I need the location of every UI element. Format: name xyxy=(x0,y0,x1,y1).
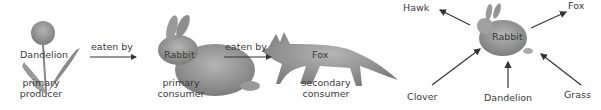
arrow-clover-to-rabbit xyxy=(432,49,480,85)
rabbit-web-label: Rabbit xyxy=(492,31,523,42)
dandelion-role-line2: producer xyxy=(17,88,65,99)
grass-label: Grass xyxy=(564,89,591,100)
dandelion-role: primary producer xyxy=(17,77,65,99)
fox-role: secondary consumer xyxy=(296,77,356,99)
clover-label: Clover xyxy=(407,91,437,102)
arrow-rabbit-to-hawk xyxy=(440,10,470,25)
rabbit-web-illustration xyxy=(477,2,533,56)
eaten-by-label-2: eaten by xyxy=(225,41,267,52)
dandelion-role-line1: primary xyxy=(17,77,65,88)
fox-web-label: Fox xyxy=(568,0,584,11)
arrow-rabbit-to-fox xyxy=(531,12,566,28)
eaten-by-label-1: eaten by xyxy=(91,41,133,52)
dandelion-label: Dandelion xyxy=(20,49,68,60)
rabbit-role: primary consumer xyxy=(155,77,207,99)
dandelion-web-label: Dandelion xyxy=(484,92,532,103)
rabbit-role-line2: consumer xyxy=(155,88,207,99)
fox-role-line2: consumer xyxy=(296,88,356,99)
fox-label: Fox xyxy=(312,49,328,60)
hawk-label: Hawk xyxy=(403,2,429,13)
arrow-grass-to-rabbit xyxy=(541,54,581,85)
rabbit-role-line1: primary xyxy=(155,77,207,88)
rabbit-label: Rabbit xyxy=(164,49,195,60)
fox-role-line1: secondary xyxy=(296,77,356,88)
